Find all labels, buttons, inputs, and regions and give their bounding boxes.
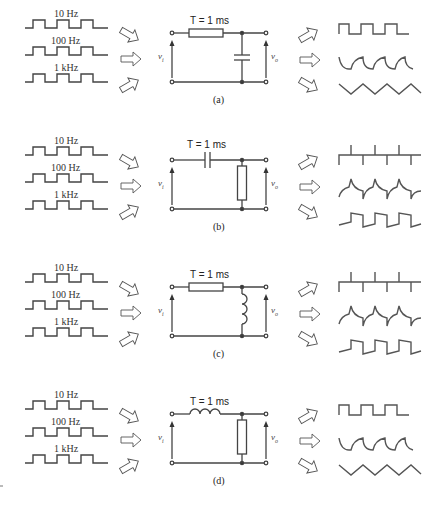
vin-label: vi bbox=[158, 305, 164, 317]
vout-label: vo bbox=[271, 305, 278, 317]
caption-b: (b) bbox=[213, 221, 225, 232]
input-label-10hz: 10 Hz bbox=[54, 135, 78, 146]
vout-label: vo bbox=[271, 51, 278, 63]
input-label-100hz: 100 Hz bbox=[51, 35, 80, 46]
caption-a: (a) bbox=[213, 94, 224, 105]
vin-label: vi bbox=[158, 178, 164, 190]
input-label-10hz: 10 Hz bbox=[54, 262, 78, 273]
input-label-1khz: 1 kHz bbox=[54, 62, 78, 73]
time-constant-label: T = 1 ms bbox=[190, 269, 229, 280]
input-label-100hz: 100 Hz bbox=[51, 162, 80, 173]
input-label-100hz: 100 Hz bbox=[51, 289, 80, 300]
time-constant-label: T = 1 ms bbox=[190, 396, 229, 407]
time-constant-label: T = 1 ms bbox=[190, 15, 229, 26]
vin-label: vi bbox=[158, 51, 164, 63]
panel-b-labels: 10 Hz 100 Hz 1 kHz T = 1 ms vi vo (b) bbox=[0, 127, 436, 254]
input-label-100hz: 100 Hz bbox=[51, 416, 80, 427]
caption-d: (d) bbox=[213, 475, 225, 486]
vin-label: vi bbox=[158, 432, 164, 444]
time-constant-label: T = 1 ms bbox=[187, 139, 226, 150]
vout-label: vo bbox=[271, 432, 278, 444]
panel-d-labels: 10 Hz 100 Hz 1 kHz T = 1 ms vi vo (d) bbox=[0, 381, 436, 508]
input-label-1khz: 1 kHz bbox=[54, 189, 78, 200]
input-label-1khz: 1 kHz bbox=[54, 316, 78, 327]
input-label-10hz: 10 Hz bbox=[54, 8, 78, 19]
panel-a-labels: 10 Hz 100 Hz 1 kHz T = 1 ms vi vo (a) bbox=[0, 0, 436, 127]
panel-c-labels: 10 Hz 100 Hz 1 kHz T = 1 ms vi vo (c) bbox=[0, 254, 436, 381]
vout-label: vo bbox=[271, 178, 278, 190]
input-label-10hz: 10 Hz bbox=[54, 389, 78, 400]
input-label-1khz: 1 kHz bbox=[54, 443, 78, 454]
caption-c: (c) bbox=[213, 348, 224, 359]
